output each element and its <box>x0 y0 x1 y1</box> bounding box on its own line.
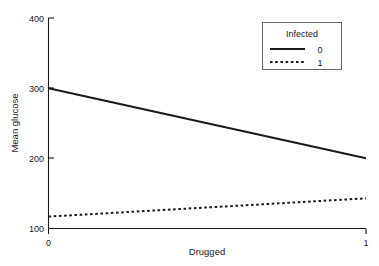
legend-label-infected-1: 1 <box>317 58 322 68</box>
x-tick-label-0: 0 <box>46 238 51 248</box>
legend: Infected 0 1 <box>263 23 342 70</box>
line-chart: 400 300 200 100 0 1 Drugged Mean glucose… <box>0 0 379 266</box>
y-tick-label-300: 300 <box>29 84 44 94</box>
y-axis-title: Mean glucose <box>9 93 20 152</box>
y-tick-label-100: 100 <box>29 224 44 234</box>
legend-title: Infected <box>286 29 318 39</box>
x-tick-label-1: 1 <box>363 238 368 248</box>
chart-container: 400 300 200 100 0 1 Drugged Mean glucose… <box>0 0 379 266</box>
x-axis-title: Drugged <box>189 246 225 257</box>
y-tick-label-400: 400 <box>29 14 44 24</box>
series-line-infected-0 <box>49 88 367 158</box>
series-line-infected-1 <box>49 198 367 216</box>
legend-label-infected-0: 0 <box>317 45 322 55</box>
y-tick-label-200: 200 <box>29 154 44 164</box>
